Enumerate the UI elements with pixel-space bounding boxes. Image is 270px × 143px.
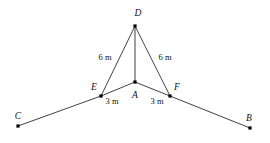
edge-C-E [18, 96, 101, 126]
diagram-canvas: D A E F C B 6 m 6 m 3 m 3 m [0, 0, 270, 143]
point-label-E: E [90, 82, 97, 92]
edge-E-A [101, 82, 135, 96]
point-label-F: F [173, 82, 180, 92]
vertex-point-B [248, 126, 251, 129]
vertex-point-D [133, 24, 136, 27]
edge-A-F [135, 82, 170, 96]
point-label-C: C [15, 111, 22, 121]
length-label-AF: 3 m [151, 96, 164, 106]
length-label-DF: 6 m [159, 52, 172, 62]
geometry-diagram: D A E F C B 6 m 6 m 3 m 3 m [0, 0, 270, 143]
length-label-DE: 6 m [99, 52, 112, 62]
edges-group [18, 26, 250, 128]
vertex-point-A [133, 80, 136, 83]
point-label-D: D [134, 8, 142, 18]
vertex-point-E [99, 94, 102, 97]
point-label-B: B [246, 113, 252, 123]
vertex-point-C [16, 124, 19, 127]
length-label-EA: 3 m [106, 96, 119, 106]
point-label-A: A [131, 90, 138, 100]
vertex-point-F [168, 94, 171, 97]
edge-F-B [170, 96, 250, 128]
